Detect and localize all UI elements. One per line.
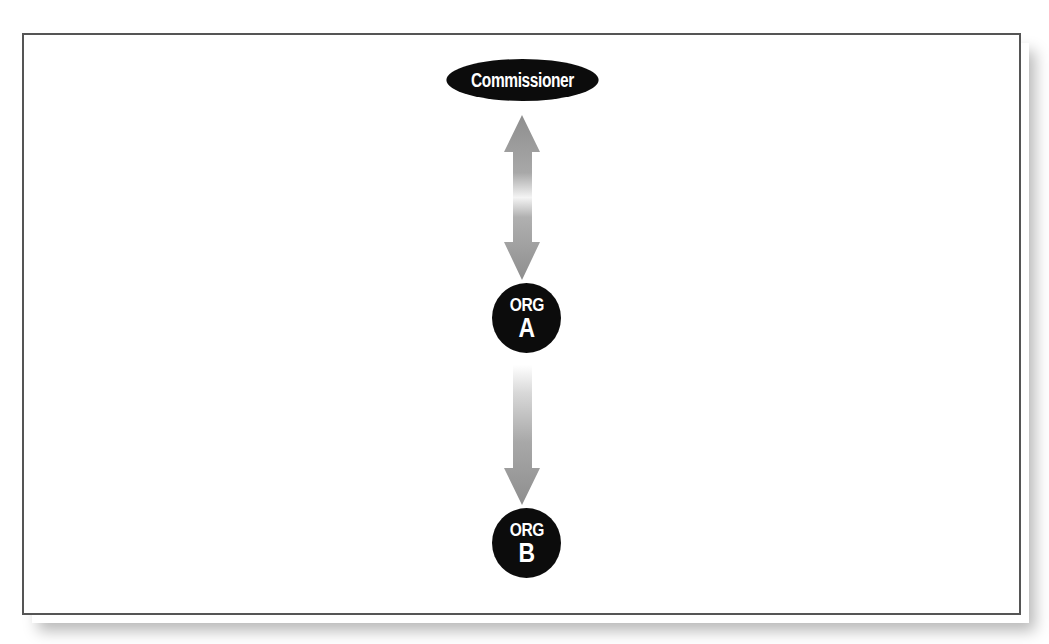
commissioner-label: Commissioner (471, 69, 574, 92)
org-a-label-line1: ORG (509, 295, 543, 314)
org-a-label-line2: A (518, 315, 535, 342)
org-b-label-line1: ORG (509, 520, 543, 539)
commissioner-node: Commissioner (446, 59, 598, 101)
org-b-label-line2: B (518, 540, 535, 567)
org-a-node: ORG A (492, 283, 561, 353)
org-b-node: ORG B (492, 508, 561, 578)
